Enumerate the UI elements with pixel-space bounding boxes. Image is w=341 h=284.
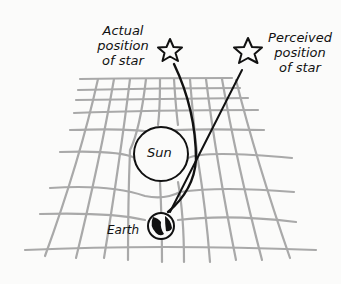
actual-label-line1: Actual: [88, 23, 158, 38]
actual-label-line3: of star: [88, 53, 158, 68]
perceived-star-icon: [234, 38, 262, 63]
perceived-position-label: Perceived position of star: [262, 30, 338, 75]
actual-star-icon: [158, 39, 182, 61]
earth-label: Earth: [107, 223, 139, 238]
earth-icon: [148, 213, 174, 239]
gravitational-lensing-diagram: Actual position of star Perceived positi…: [0, 0, 341, 284]
perceived-label-line3: of star: [262, 60, 338, 75]
perceived-label-line2: position: [262, 45, 338, 60]
perceived-label-line1: Perceived: [262, 30, 338, 45]
sun-label: Sun: [147, 145, 172, 160]
actual-position-label: Actual position of star: [88, 23, 158, 68]
actual-label-line2: position: [88, 38, 158, 53]
